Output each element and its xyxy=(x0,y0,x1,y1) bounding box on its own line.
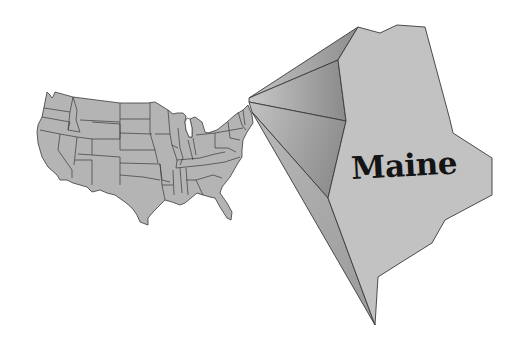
maine-label: Maine xyxy=(350,145,458,186)
maine-label-wrap: Maine xyxy=(350,145,458,186)
map-figure: Maine xyxy=(0,0,522,352)
us-map xyxy=(37,92,253,225)
